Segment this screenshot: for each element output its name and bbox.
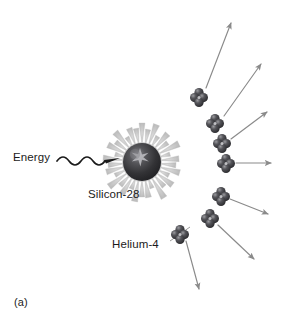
emission-arrow-3 (231, 112, 267, 139)
figure-container: Energy Silicon-28 Helium-4 (a) (0, 0, 282, 318)
helium-4-particle (217, 154, 235, 173)
emission-arrow-7 (186, 241, 199, 289)
emission-arrow-2 (224, 64, 261, 116)
emission-arrow-6 (218, 225, 254, 259)
helium-4-particle (201, 209, 219, 228)
energy-label: Energy (13, 151, 50, 163)
helium-4-particle (212, 187, 230, 206)
silicon-28-label: Silicon-28 (88, 188, 140, 200)
emission-arrow-1 (206, 23, 231, 88)
panel-caption: (a) (14, 296, 28, 308)
helium-4-particle (213, 134, 231, 153)
silicon-28-nucleus (123, 143, 161, 181)
helium-4-particle (206, 114, 224, 133)
helium-4-label: Helium-4 (112, 238, 159, 250)
helium-4-particle-group (171, 88, 235, 244)
helium-4-particle (190, 88, 208, 107)
emission-arrow-5 (230, 199, 268, 214)
